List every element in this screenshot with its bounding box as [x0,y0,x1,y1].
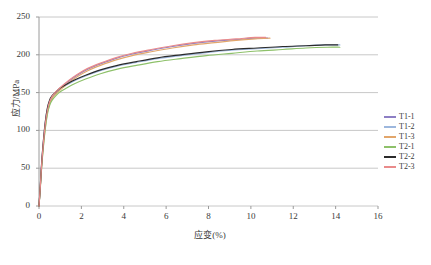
legend-item-t1-3[interactable]: T1-3 [384,132,431,142]
y-axis-title: 应力/MPa [9,69,22,129]
chart-plot-area [0,0,431,265]
x-tick-label: 14 [326,212,346,221]
y-tick-label: 50 [4,163,30,172]
y-tick-label: 200 [4,50,30,59]
legend-swatch-icon [384,156,396,158]
x-tick-label: 10 [241,212,261,221]
x-tick-label: 2 [71,212,91,221]
legend-swatch-icon [384,126,396,128]
chart-legend: T1-1T1-2T1-3T2-1T2-2T2-3 [384,112,431,172]
x-tick-label: 12 [283,212,303,221]
y-tick-label: 250 [4,12,30,21]
series-line-t1-2 [39,45,340,206]
legend-item-t1-2[interactable]: T1-2 [384,122,431,132]
stress-strain-chart: 050100150200250 0246810121416 应力/MPa 应变(… [0,0,431,265]
x-tick-label: 4 [114,212,134,221]
x-tick-label: 8 [199,212,219,221]
legend-swatch-icon [384,166,396,168]
legend-item-t2-3[interactable]: T2-3 [384,162,431,172]
legend-item-label: T2-1 [399,143,415,151]
x-tick-label: 16 [368,212,388,221]
legend-swatch-icon [384,146,396,148]
legend-item-label: T1-1 [399,113,415,121]
series-line-t1-1 [39,38,268,206]
legend-item-label: T2-2 [399,153,415,161]
x-tick-label: 0 [29,212,49,221]
legend-swatch-icon [384,136,396,138]
x-axis-title: 应变(%) [170,228,250,241]
y-tick-label: 0 [4,201,30,210]
legend-item-label: T1-3 [399,133,415,141]
series-line-t1-3 [39,38,270,206]
legend-item-t2-2[interactable]: T2-2 [384,152,431,162]
legend-swatch-icon [384,116,396,118]
series-line-t2-2 [39,45,338,206]
x-tick-label: 6 [156,212,176,221]
data-series-group [39,37,340,206]
legend-item-label: T1-2 [399,123,415,131]
legend-item-label: T2-3 [399,163,415,171]
legend-item-t1-1[interactable]: T1-1 [384,112,431,122]
legend-item-t2-1[interactable]: T2-1 [384,142,431,152]
